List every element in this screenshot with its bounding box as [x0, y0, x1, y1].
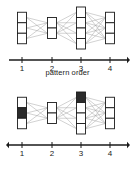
- layer-4: [106, 97, 115, 129]
- axis-arrowhead-right: [127, 142, 130, 148]
- network-node: [48, 103, 57, 114]
- network-node: [106, 12, 115, 23]
- layer-3: [77, 92, 86, 134]
- layer-1: [18, 12, 27, 44]
- network-node: [18, 118, 27, 129]
- network-node: [48, 113, 57, 124]
- axis-arrowhead-left: [6, 142, 9, 148]
- network-node: [18, 23, 27, 34]
- network-node-active: [18, 108, 27, 119]
- network-node: [106, 108, 115, 119]
- network-node-active: [77, 92, 86, 103]
- axis-label-pattern-order-top: pattern order: [0, 68, 135, 77]
- network-node: [77, 39, 86, 50]
- network-node: [106, 118, 115, 129]
- network-node: [106, 23, 115, 34]
- layer-1: [18, 97, 27, 129]
- axis-tick-label-2: 2: [50, 149, 55, 158]
- connection-edge: [57, 33, 77, 44]
- axis-arrowhead-right: [127, 57, 130, 63]
- pattern-order-axis: 1234: [6, 142, 130, 158]
- network-node: [18, 33, 27, 44]
- network-node: [48, 18, 57, 29]
- axis-tick-label-4: 4: [108, 149, 113, 158]
- connection-edge: [57, 118, 77, 129]
- layer-2: [48, 18, 57, 39]
- network-node: [77, 18, 86, 29]
- network-diagram-unprimed: 1234 pattern order: [0, 0, 135, 84]
- connection-edges: [27, 97, 106, 129]
- figure-root: 1234 pattern order 1234 pattern order: [0, 0, 135, 169]
- network-node: [77, 124, 86, 135]
- connection-edge: [57, 12, 77, 23]
- axis-tick-label-3: 3: [79, 149, 84, 158]
- network-node: [77, 7, 86, 18]
- connection-edge: [57, 97, 77, 108]
- network-node: [77, 113, 86, 124]
- network-node: [18, 97, 27, 108]
- axis-tick-label-1: 1: [20, 149, 25, 158]
- network-node: [48, 28, 57, 39]
- layer-3: [77, 7, 86, 49]
- network-node: [77, 28, 86, 39]
- layer-4: [106, 12, 115, 44]
- layer-2: [48, 103, 57, 124]
- network-node: [106, 97, 115, 108]
- network-node: [77, 103, 86, 114]
- network-diagram-primed: 1234 pattern order: [0, 85, 135, 169]
- network-node: [18, 12, 27, 23]
- connection-edges: [27, 12, 106, 44]
- network-node: [106, 33, 115, 44]
- panel-bottom-canvas: 1234: [0, 85, 135, 169]
